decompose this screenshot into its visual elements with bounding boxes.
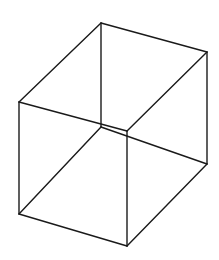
cube-edge-CD (19, 102, 127, 131)
cube-edge-FH (127, 164, 207, 246)
cube-diagram (0, 0, 219, 260)
cube-edge-AC (19, 23, 101, 102)
cube-edge-BD (127, 52, 207, 131)
cube-edge-GH (19, 214, 127, 246)
cube-edge-AB (101, 23, 207, 52)
cube-edge-EF (101, 127, 207, 164)
cube-edge-EG (19, 127, 101, 214)
cube-edges (19, 23, 207, 246)
